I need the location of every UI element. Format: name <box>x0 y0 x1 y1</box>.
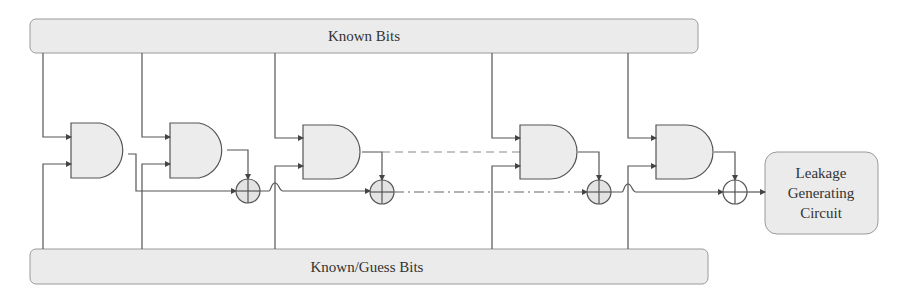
wire-known-to-gate-5 <box>628 53 656 138</box>
wire-known-to-gate-2 <box>142 53 170 137</box>
known-bits-bus: Known Bits <box>30 19 698 53</box>
wire-xor-1-to-xor-2 <box>260 183 370 191</box>
and-gate-1 <box>71 123 123 178</box>
wire-gate-4-to-xor-3 <box>578 152 599 180</box>
xor-1 <box>236 179 260 203</box>
xor-2 <box>370 180 394 204</box>
circuit-diagram: Known Bits Known/Guess Bits Leakage Gene… <box>0 0 910 301</box>
leakage-generating-circuit-box: Leakage Generating Circuit <box>765 152 878 234</box>
known-guess-bits-bus: Known/Guess Bits <box>30 249 708 284</box>
and-gate-2 <box>170 123 222 178</box>
wire-guess-to-gate-5 <box>628 166 656 249</box>
xor-3 <box>587 180 611 204</box>
wire-gate-2-to-xor-1 <box>227 150 248 179</box>
and-gate-3 <box>303 125 360 179</box>
wire-gate-3-to-xor-2 <box>362 152 382 180</box>
leakage-label-line-2: Generating <box>788 185 855 201</box>
leakage-label-line-1: Leakage <box>796 165 847 181</box>
wire-known-to-gate-1 <box>43 53 71 137</box>
wire-guess-to-gate-2 <box>142 164 170 249</box>
and-gate-5 <box>656 125 713 179</box>
wire-guess-to-gate-1 <box>43 164 71 249</box>
wire-known-to-gate-4 <box>492 53 520 138</box>
known-bits-label: Known Bits <box>328 28 400 44</box>
wire-guess-to-gate-4 <box>492 166 520 249</box>
xor-4 <box>723 180 747 204</box>
wire-guess-to-gate-3 <box>275 166 303 249</box>
known-guess-bits-label: Known/Guess Bits <box>311 259 424 275</box>
and-gate-4 <box>520 125 577 179</box>
wire-known-to-gate-3 <box>275 53 303 138</box>
wire-gate-5-to-xor-4 <box>714 152 735 180</box>
leakage-label-line-3: Circuit <box>800 205 842 221</box>
